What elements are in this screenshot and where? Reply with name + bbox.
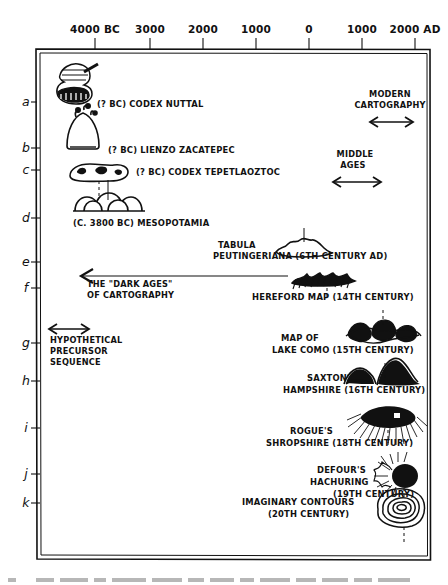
entry-label: (C. 3800 BC) MESOPOTAMIA <box>73 218 210 228</box>
row-letter-i: i <box>24 420 28 435</box>
axis-tick-label: 0 <box>305 23 313 35</box>
entry-label: IMAGINARY CONTOURS <box>242 497 354 507</box>
entry-label: HACHURING <box>310 477 369 487</box>
row-letter-c: c <box>22 162 29 177</box>
relief-depiction-timeline-figure: 4000 BC 3000 2000 1000 0 1000 2000 AD a … <box>0 0 448 585</box>
row-letter-b: b <box>22 140 30 155</box>
row-letter-e: e <box>22 254 30 269</box>
entry-label: (20TH CENTURY) <box>268 509 349 519</box>
codex-tepetlaoztoc-glyph <box>70 164 128 181</box>
entry-saxtons-hampshire: SAXTON'S HAMPSHIRE (16TH CENTURY) <box>283 358 425 395</box>
axis-tick-label: 2000 <box>188 23 218 35</box>
axis-tick-label: 4000 BC <box>70 23 120 35</box>
annotation-label: OF CARTOGRAPHY <box>87 290 175 300</box>
axis-tick-marks <box>95 38 415 50</box>
row-letter-h: h <box>22 373 30 388</box>
row-letter-a: a <box>22 94 30 109</box>
annotation-label: MODERN <box>369 89 411 99</box>
entry-codex-tepetlaoztoc: (? BC) CODEX TEPETLAOZTOC <box>70 164 280 196</box>
entry-label: MAP OF <box>281 333 319 343</box>
entry-label: PEUTINGERIANA (6TH CENTURY AD) <box>213 251 387 261</box>
entry-label: (? BC) CODEX NUTTAL <box>97 99 204 109</box>
entry-label: HAMPSHIRE (16TH CENTURY) <box>283 385 425 395</box>
double-arrow-icon <box>49 324 89 334</box>
row-letter-d: d <box>22 210 30 225</box>
entry-lienzo-zacatepec: (? BC) LIENZO ZACATEPEC <box>67 104 235 155</box>
annotation-middle-ages: MIDDLE AGES <box>333 149 381 187</box>
hereford-map-glyph <box>292 273 355 289</box>
entry-label: (? BC) CODEX TEPETLAOZTOC <box>136 167 280 177</box>
codex-nuttal-glyph <box>57 64 98 104</box>
double-arrow-icon <box>370 117 413 127</box>
entry-label: HEREFORD MAP (14TH CENTURY) <box>252 292 414 302</box>
entry-codex-nuttal: (? BC) CODEX NUTTAL <box>57 64 204 109</box>
axis-tick-labels: 4000 BC 3000 2000 1000 0 1000 2000 AD <box>70 23 441 35</box>
entry-mesopotamia: (C. 3800 BC) MESOPOTAMIA <box>73 180 210 228</box>
entry-label: SHROPSHIRE (18TH CENTURY) <box>266 438 413 448</box>
double-arrow-icon <box>333 177 381 187</box>
annotation-label: MIDDLE <box>337 149 374 159</box>
entry-label: DEFOUR'S <box>317 465 366 475</box>
entry-label: (? BC) LIENZO ZACATEPEC <box>108 145 235 155</box>
entry-hereford-map: HEREFORD MAP (14TH CENTURY) <box>252 273 414 302</box>
annotation-label: HYPOTHETICAL <box>50 335 122 345</box>
row-letter-k: k <box>22 495 30 510</box>
annotation-label: THE "DARK AGES" <box>87 279 173 289</box>
annotation-modern-cartography: MODERN CARTOGRAPHY <box>354 89 426 127</box>
axis-tick-label: 1000 <box>241 23 271 35</box>
axis-tick-label: 3000 <box>135 23 165 35</box>
entry-label: SAXTON'S <box>307 373 356 383</box>
entry-label: ROGUE'S <box>290 426 333 436</box>
annotation-hypothetical-precursor: HYPOTHETICAL PRECURSOR SEQUENCE <box>49 324 122 367</box>
entry-label: LAKE COMO (15TH CENTURY) <box>272 345 414 355</box>
entry-tabula-peutingeriana: TABULA PEUTINGERIANA (6TH CENTURY AD) <box>213 228 387 261</box>
row-letter-g: g <box>22 335 30 350</box>
annotation-label: CARTOGRAPHY <box>354 100 426 110</box>
entry-defours-hachuring: DEFOUR'S HACHURING (19TH CENTURY) <box>310 452 418 499</box>
annotation-label: SEQUENCE <box>50 357 101 367</box>
entry-rogues-shropshire: ROGUE'S SHROPSHIRE (18TH CENTURY) <box>266 406 427 448</box>
row-letter-f: f <box>24 280 30 295</box>
mesopotamia-glyph <box>73 193 145 211</box>
annotation-label: AGES <box>340 160 365 170</box>
lienzo-zacatepec-glyph <box>67 104 99 149</box>
row-letter-j: j <box>22 466 28 481</box>
axis-tick-label: 1000 <box>347 23 377 35</box>
entry-label: TABULA <box>218 240 256 250</box>
annotation-label: PRECURSOR <box>50 346 108 356</box>
axis-tick-label: 2000 AD <box>389 23 440 35</box>
figure-caption-cropped <box>8 578 410 582</box>
entry-lake-como: MAP OF LAKE COMO (15TH CENTURY) <box>272 310 421 355</box>
